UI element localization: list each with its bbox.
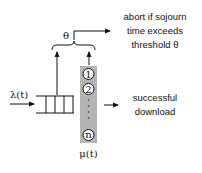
queue-buffer: [36, 96, 74, 113]
queue-diagram: λ(t) 1 2 n μ(t) θ abort if: [0, 0, 202, 173]
svg-text:download: download: [135, 106, 176, 117]
threshold-brace: [52, 41, 95, 50]
svg-text:threshold θ: threshold θ: [131, 39, 178, 50]
service-rate-label: μ(t): [79, 148, 97, 159]
threshold-label: θ: [63, 30, 69, 41]
svg-text:2: 2: [85, 84, 91, 95]
abort-description: abort if sojourn time exceeds threshold …: [124, 11, 187, 50]
abort-arrow: [74, 31, 110, 40]
svg-text:abort if sojourn: abort if sojourn: [124, 11, 187, 22]
svg-text:1: 1: [85, 69, 91, 80]
success-description: successful download: [133, 92, 177, 117]
svg-text:time exceeds: time exceeds: [127, 25, 183, 36]
arrival-rate-label: λ(t): [10, 89, 28, 100]
server-1: 1: [83, 69, 94, 80]
svg-text:n: n: [85, 129, 92, 140]
server-n: n: [83, 129, 94, 141]
svg-text:successful: successful: [133, 92, 177, 103]
server-2: 2: [83, 84, 94, 95]
